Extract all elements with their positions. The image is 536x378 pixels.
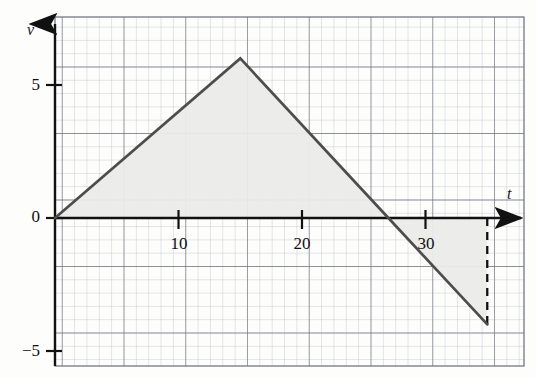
x-tick-label-20: 20: [281, 235, 323, 252]
v-axis-label: v: [27, 22, 34, 38]
y-tick-label-minus-5: −5: [0, 342, 40, 359]
velocity-time-graph-figure: v t 5 0 −5 10 20 30: [0, 0, 536, 378]
chart-canvas: [0, 0, 536, 378]
x-tick-label-30: 30: [405, 235, 447, 252]
y-tick-label-5: 5: [0, 76, 40, 93]
x-tick-label-10: 10: [158, 235, 200, 252]
y-tick-label-0: 0: [0, 208, 40, 225]
t-axis-label: t: [507, 186, 511, 202]
